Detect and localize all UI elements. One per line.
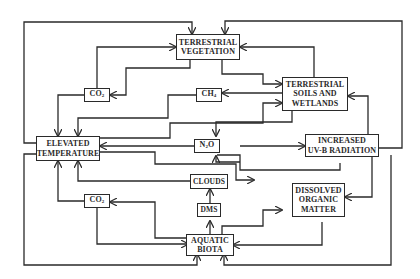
- clouds-box: CLOUDS: [190, 174, 228, 189]
- terrestrial-soils-line1: TERRESTRIAL: [286, 80, 344, 90]
- terrestrial-soils-line2: SOILS AND: [286, 89, 344, 99]
- co2-upper-label: CO: [90, 89, 102, 98]
- elevated-temperature-line2: TEMPERATURE: [37, 149, 100, 159]
- terrestrial-vegetation-box: TERRESTRIAL VEGETATION: [176, 34, 240, 60]
- elevated-temperature-box: ELEVATED TEMPERATURE: [36, 136, 100, 161]
- terrestrial-soils-line3: WETLANDS: [286, 99, 344, 109]
- dissolved-organic-matter-line1: DISSOLVED: [295, 186, 341, 196]
- clouds-label: CLOUDS: [193, 177, 225, 187]
- co2-lower-box: CO2: [84, 194, 110, 208]
- increased-uvb-line2: UV-B RADIATION: [308, 146, 376, 156]
- dms-box: DMS: [197, 203, 221, 217]
- ch4-box: CH4: [196, 88, 222, 102]
- terrestrial-soils-wetlands-box: TERRESTRIAL SOILS AND WETLANDS: [282, 77, 348, 111]
- increased-uvb-line1: INCREASED: [308, 136, 376, 146]
- aquatic-biota-line2: BIOTA: [191, 245, 229, 255]
- ch4-subscript: 4: [214, 93, 217, 98]
- dms-label: DMS: [201, 205, 218, 215]
- n2o-label-rest: O: [208, 140, 214, 149]
- dissolved-organic-matter-line2: ORGANIC: [295, 195, 341, 205]
- increased-uvb-radiation-box: INCREASED UV-B RADIATION: [305, 134, 379, 157]
- aquatic-biota-line1: AQUATIC: [191, 236, 229, 246]
- dissolved-organic-matter-box: DISSOLVED ORGANIC MATTER: [292, 183, 345, 217]
- co2-upper-subscript: 2: [102, 93, 105, 98]
- terrestrial-vegetation-line1: TERRESTRIAL: [179, 38, 237, 48]
- co2-lower-label: CO: [90, 195, 102, 204]
- dissolved-organic-matter-line3: MATTER: [295, 205, 341, 215]
- ch4-label: CH: [202, 89, 214, 98]
- terrestrial-vegetation-line2: VEGETATION: [179, 47, 237, 57]
- co2-lower-subscript: 2: [102, 199, 105, 204]
- aquatic-biota-box: AQUATIC BIOTA: [186, 234, 234, 256]
- elevated-temperature-line1: ELEVATED: [37, 139, 100, 149]
- co2-upper-box: CO2: [84, 88, 110, 102]
- n2o-box: N2O: [194, 139, 220, 153]
